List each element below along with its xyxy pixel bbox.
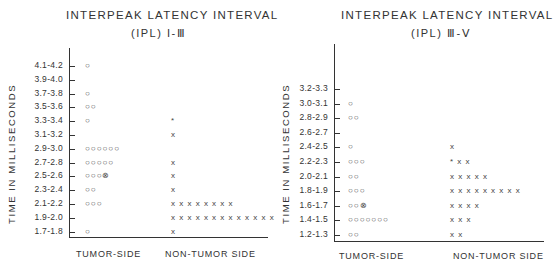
tumor-side-marks: ○○○○○ [85,158,114,168]
y-tick [69,176,75,177]
chart-subtitle: (IPL) Ⅲ-Ⅴ [411,27,471,40]
x-category-non-tumor-side: NON-TUMOR SIDE [165,249,256,259]
chart-title: INTERPEAK LATENCY INTERVAL [66,9,279,21]
y-tick [69,149,75,150]
y-tick [334,118,340,119]
non-tumor-side-marks: x x [450,230,463,240]
x-category-non-tumor-side: NON-TUMOR SIDE [453,251,544,261]
y-tick-label: 1.6-1.7 [280,200,328,210]
y-tick [334,162,340,163]
x-axis [334,241,544,242]
y-axis [69,48,70,237]
y-tick [69,204,75,205]
y-tick [334,206,340,207]
chart-ipl-iii-v: INTERPEAK LATENCY INTERVAL (IPL) Ⅲ-Ⅴ TIM… [275,0,550,266]
non-tumor-side-marks: x [171,171,176,181]
y-tick-label: 3.2-3.3 [280,83,328,93]
y-tick [69,80,75,81]
non-tumor-side-marks: x x x x x [450,172,488,182]
y-tick [334,133,340,134]
y-tick-label: 2.4-2.5 [280,141,328,151]
chart-title: INTERPEAK LATENCY INTERVAL [341,9,554,21]
tumor-side-marks: ○○ [348,230,360,240]
non-tumor-side-marks: x [171,185,176,195]
tumor-side-marks: ○ [85,89,91,99]
y-tick [69,232,75,233]
tumor-side-marks: ○ [348,142,354,152]
tumor-side-marks: ○ [85,227,91,237]
y-tick-label: 2.6-2.7 [280,127,328,137]
tumor-side-marks: ○ [85,61,91,71]
y-tick-label: 2.2-2.3 [280,156,328,166]
y-tick [69,190,75,191]
y-tick [69,163,75,164]
non-tumor-side-marks: x x x x x x x x x [450,186,521,196]
y-tick-label: 2.3-2.4 [15,184,63,194]
y-tick [334,191,340,192]
y-tick [334,177,340,178]
non-tumor-side-marks: x [450,142,455,152]
y-tick-label: 2.0-2.1 [280,171,328,181]
y-tick-label: 4.1-4.2 [15,60,63,70]
y-tick [334,104,340,105]
y-tick-label: 1.9-2.0 [15,212,63,222]
non-tumor-side-marks: x [171,158,176,168]
tumor-side-marks: ○○ [348,113,360,123]
non-tumor-side-marks: x [171,227,176,237]
tumor-side-marks: ○○○ [348,157,366,167]
y-tick [69,135,75,136]
y-tick-label: 3.0-3.1 [280,98,328,108]
non-tumor-side-marks: x x x x x x x x [171,199,234,209]
y-tick-label: 1.8-1.9 [280,185,328,195]
y-tick [69,66,75,67]
tumor-side-marks: ○ [348,99,354,109]
non-tumor-side-marks: x [171,130,176,140]
y-tick-label: 3.7-3.8 [15,88,63,98]
tumor-side-marks: ○ [85,116,91,126]
y-tick-label: 1.7-1.8 [15,226,63,236]
non-tumor-side-marks: x x x x x x x x x x x x x [171,213,275,223]
y-tick-label: 3.3-3.4 [15,115,63,125]
y-axis [334,44,335,241]
y-tick-label: 3.1-3.2 [15,129,63,139]
y-tick-label: 2.8-2.9 [280,112,328,122]
tumor-side-marks: ○○ [85,102,97,112]
y-tick-label: 3.9-4.0 [15,74,63,84]
non-tumor-side-marks: * x x [450,157,471,167]
tumor-side-marks: ○○○○○○ [85,144,120,154]
y-tick-label: 1.2-1.3 [280,229,328,239]
chart-ipl-i-iii: INTERPEAK LATENCY INTERVAL (IPL) I-Ⅲ TIM… [0,0,275,266]
y-tick [69,218,75,219]
y-tick [334,89,340,90]
y-tick [69,107,75,108]
y-tick-label: 2.1-2.2 [15,198,63,208]
y-tick-label: 1.4-1.5 [280,214,328,224]
x-axis [69,237,268,238]
tumor-side-marks: ○○⊗ [348,201,368,211]
tumor-side-marks: ○○ [348,172,360,182]
y-tick [334,220,340,221]
y-tick [334,235,340,236]
tumor-side-marks: ○○○⊗ [85,171,111,181]
y-tick-label: 2.9-3.0 [15,143,63,153]
y-tick [334,147,340,148]
y-tick-label: 2.5-2.6 [15,170,63,180]
y-tick-label: 2.7-2.8 [15,157,63,167]
non-tumor-side-marks: x x x [450,215,471,225]
y-tick [69,121,75,122]
non-tumor-side-marks: * [171,116,175,126]
y-tick-label: 3.5-3.6 [15,101,63,111]
x-category-tumor-side: TUMOR-SIDE [339,251,404,261]
tumor-side-marks: ○○○ [85,199,103,209]
tumor-side-marks: ○○○ [348,186,366,196]
tumor-side-marks: ○○ [85,185,97,195]
x-category-tumor-side: TUMOR-SIDE [76,249,141,259]
tumor-side-marks: ○○○○○○○ [348,215,389,225]
chart-subtitle: (IPL) I-Ⅲ [131,27,186,40]
y-tick [69,94,75,95]
non-tumor-side-marks: x x x x [450,201,480,211]
